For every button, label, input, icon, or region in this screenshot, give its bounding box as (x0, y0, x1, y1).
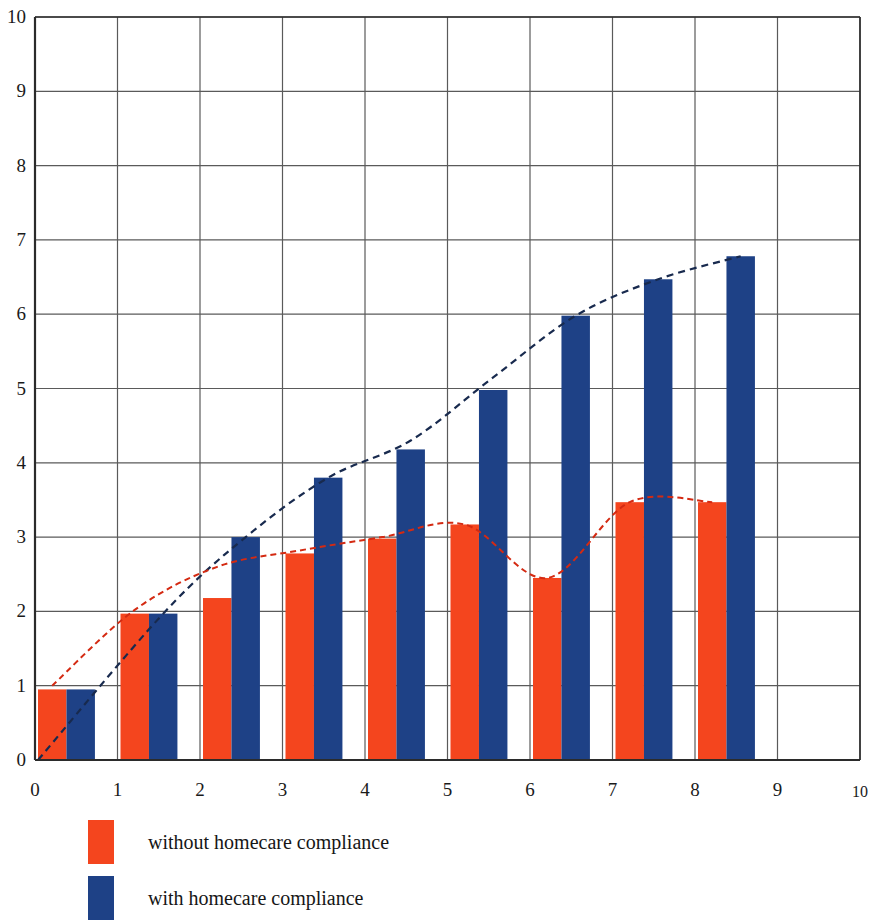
legend-color-swatch (88, 876, 114, 920)
y-axis-tick-label: 7 (0, 230, 26, 249)
bar-without-homecare (451, 524, 479, 760)
bar-without-homecare (203, 598, 231, 760)
legend-item: with homecare compliance (88, 876, 363, 920)
x-axis-tick-label: 7 (588, 780, 638, 799)
y-axis-tick-label: 1 (0, 676, 26, 695)
bar-without-homecare (368, 539, 396, 760)
bar-without-homecare (38, 689, 66, 760)
y-axis-tick-label: 0 (0, 750, 26, 769)
bar-with-homecare (231, 537, 259, 760)
y-axis-tick-label: 9 (0, 81, 26, 100)
bar-with-homecare (149, 614, 177, 760)
bar-with-homecare (314, 478, 342, 760)
bar-with-homecare (66, 689, 94, 760)
y-axis-tick-label: 3 (0, 527, 26, 546)
bar-without-homecare (698, 502, 726, 760)
bar-with-homecare (561, 316, 589, 760)
chart-bars (38, 256, 755, 760)
legend-color-swatch (88, 820, 114, 864)
bar-without-homecare (121, 614, 149, 760)
bar-with-homecare (726, 256, 754, 760)
x-axis-tick-label: 8 (670, 780, 720, 799)
x-axis-tick-label: 6 (505, 780, 555, 799)
bar-without-homecare (286, 553, 314, 760)
legend-item: without homecare compliance (88, 820, 389, 864)
x-axis-tick-label: 0 (10, 780, 60, 799)
y-axis-tick-label: 5 (0, 379, 26, 398)
y-axis-tick-label: 4 (0, 453, 26, 472)
x-axis-tick-label: 10 (835, 784, 875, 800)
y-axis-tick-label: 6 (0, 304, 26, 323)
x-axis-tick-label: 5 (423, 780, 473, 799)
x-axis-tick-label: 9 (753, 780, 803, 799)
legend-label: with homecare compliance (148, 887, 363, 910)
y-axis-tick-label: 8 (0, 156, 26, 175)
x-axis-tick-label: 3 (258, 780, 308, 799)
x-axis-tick-label: 4 (340, 780, 390, 799)
x-axis-tick-label: 1 (93, 780, 143, 799)
bar-with-homecare (479, 390, 507, 760)
bar-with-homecare (644, 279, 672, 760)
bar-with-homecare (396, 449, 424, 760)
bar-without-homecare (616, 502, 644, 760)
y-axis-tick-label: 2 (0, 601, 26, 620)
y-axis-tick-label: 10 (0, 7, 26, 26)
x-axis-tick-label: 2 (175, 780, 225, 799)
bar-without-homecare (533, 578, 561, 760)
legend-label: without homecare compliance (148, 831, 389, 854)
